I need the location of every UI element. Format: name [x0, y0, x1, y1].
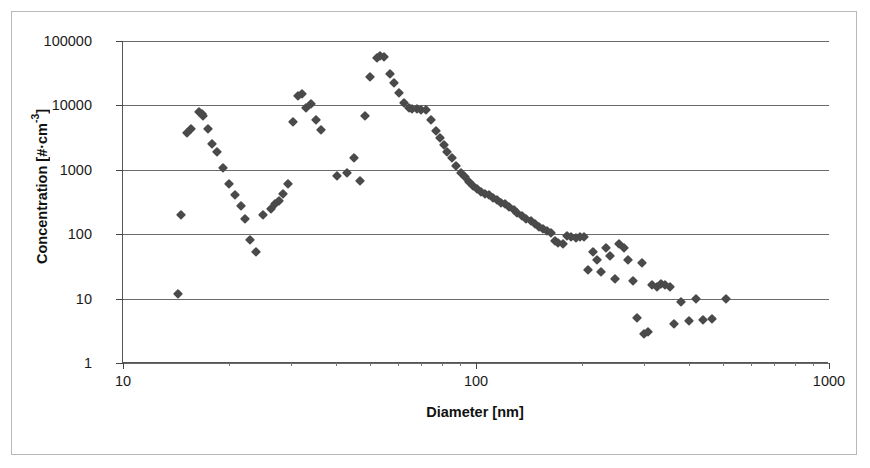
y-tick-mark-1000 — [116, 170, 123, 171]
data-point — [623, 255, 633, 265]
gridline-y-1000 — [123, 170, 829, 171]
data-point — [707, 314, 717, 324]
x-minor-tick-700 — [774, 363, 775, 366]
y-tick-mark-1 — [116, 363, 123, 364]
data-point — [316, 125, 326, 135]
y-axis-title-exponent: -3 — [30, 113, 41, 122]
data-point — [669, 319, 679, 329]
data-point — [610, 274, 620, 284]
x-minor-tick-80 — [442, 363, 443, 366]
data-point — [176, 210, 186, 220]
y-tick-mark-100000 — [116, 41, 123, 42]
y-tick-label-10000: 10000 — [0, 98, 92, 113]
y-axis-title: Concentration [#·cm-3] — [30, 86, 52, 286]
data-point — [360, 111, 370, 121]
data-point — [683, 316, 693, 326]
data-point — [426, 115, 436, 125]
y-tick-label-100: 100 — [0, 227, 92, 242]
y-tick-label-1000: 1000 — [0, 163, 92, 178]
gridline-y-100 — [123, 234, 829, 235]
y-tick-label-1: 1 — [0, 356, 92, 371]
x-axis-title: Diameter [nm] — [122, 404, 828, 420]
x-minor-tick-500 — [723, 363, 724, 366]
data-point — [283, 179, 293, 189]
data-point — [224, 179, 234, 189]
data-point — [230, 190, 240, 200]
y-tick-mark-10 — [116, 299, 123, 300]
data-point — [583, 265, 593, 275]
data-point — [311, 115, 321, 125]
data-point — [698, 315, 708, 325]
data-point — [637, 258, 647, 268]
data-point — [251, 247, 261, 257]
x-tick-mark-1000 — [829, 363, 830, 369]
x-minor-tick-60 — [398, 363, 399, 366]
x-minor-tick-800 — [795, 363, 796, 366]
x-tick-mark-100 — [476, 363, 477, 369]
x-minor-tick-900 — [813, 363, 814, 366]
data-point — [198, 111, 208, 121]
data-point — [203, 124, 213, 134]
data-point — [389, 78, 399, 88]
x-minor-tick-30 — [291, 363, 292, 366]
data-point — [173, 288, 183, 298]
data-point — [236, 201, 246, 211]
data-point — [379, 52, 389, 62]
data-point — [348, 153, 358, 163]
data-point — [258, 210, 268, 220]
data-point — [245, 235, 255, 245]
x-tick-label-100: 100 — [436, 373, 516, 389]
gridline-y-100000 — [123, 41, 829, 42]
data-point — [628, 276, 638, 286]
data-point — [218, 163, 228, 173]
figure-canvas: Concentration [#·cm-3] Diameter [nm] 100… — [0, 0, 870, 468]
data-point — [355, 175, 365, 185]
data-point — [240, 213, 250, 223]
x-tick-mark-10 — [123, 363, 124, 369]
x-minor-tick-20 — [229, 363, 230, 366]
x-minor-tick-90 — [460, 363, 461, 366]
x-minor-tick-40 — [336, 363, 337, 366]
data-point — [721, 294, 731, 304]
x-minor-tick-50 — [370, 363, 371, 366]
x-tick-label-10: 10 — [83, 373, 163, 389]
data-point — [691, 294, 701, 304]
x-minor-tick-300 — [644, 363, 645, 366]
y-tick-mark-100 — [116, 234, 123, 235]
x-minor-tick-200 — [582, 363, 583, 366]
y-tick-label-10: 10 — [0, 292, 92, 307]
gridline-y-10000 — [123, 105, 829, 106]
data-point — [212, 147, 222, 157]
x-minor-tick-70 — [421, 363, 422, 366]
y-tick-mark-10000 — [116, 105, 123, 106]
x-tick-label-1000: 1000 — [789, 373, 869, 389]
x-minor-tick-400 — [689, 363, 690, 366]
plot-area: 100000100001000100101 101001000 — [122, 41, 828, 363]
data-point — [632, 313, 642, 323]
x-minor-tick-600 — [751, 363, 752, 366]
y-tick-label-100000: 100000 — [0, 34, 92, 49]
data-point — [288, 117, 298, 127]
data-point — [596, 267, 606, 277]
y-axis-title-prefix: Concentration [#·cm — [34, 123, 50, 264]
data-point — [365, 72, 375, 82]
data-point — [605, 251, 615, 261]
data-point — [394, 88, 404, 98]
